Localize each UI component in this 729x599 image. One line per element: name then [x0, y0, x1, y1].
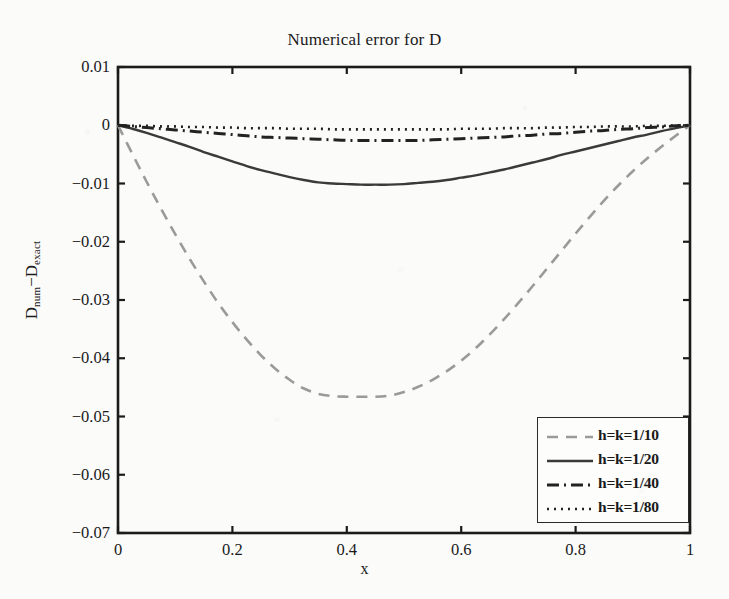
y-tick-label-0: 0.01: [32, 59, 110, 76]
y-tick-label-7: −0.06: [32, 467, 110, 484]
curve-h=k=1/80: [118, 125, 690, 129]
y-axis-label: Dnum−Dexact: [22, 190, 42, 370]
x-axis-label: x: [0, 560, 729, 578]
y-tick-label-6: −0.05: [32, 409, 110, 426]
x-tick-label-4: 0.8: [546, 542, 606, 559]
x-tick-label-5: 1: [660, 542, 720, 559]
data-curves: [118, 125, 690, 397]
legend-item-h=k=1/10[interactable]: h=k=1/10: [538, 423, 688, 447]
legend-label: h=k=1/10: [598, 426, 659, 444]
legend-label: h=k=1/40: [598, 474, 659, 492]
legend-line-sample-icon: [546, 477, 594, 489]
x-tick-label-1: 0.2: [202, 542, 262, 559]
legend-item-h=k=1/20[interactable]: h=k=1/20: [538, 447, 688, 471]
curve-h=k=1/10: [118, 125, 690, 397]
legend-label: h=k=1/20: [598, 450, 659, 468]
legend: h=k=1/10h=k=1/20h=k=1/40h=k=1/80: [537, 417, 689, 523]
legend-line-sample-icon: [546, 453, 594, 465]
legend-line-sample-icon: [546, 429, 594, 441]
x-tick-label-3: 0.6: [431, 542, 491, 559]
legend-item-h=k=1/40[interactable]: h=k=1/40: [538, 471, 688, 495]
y-tick-label-2: −0.01: [32, 176, 110, 193]
y-axis-label-sub-exact: exact: [30, 241, 42, 265]
y-tick-label-3: −0.02: [32, 234, 110, 251]
x-tick-label-2: 0.4: [317, 542, 377, 559]
figure-canvas: Numerical error for D 0.010−0.01−0.02−0.…: [0, 0, 729, 599]
y-axis-label-minus: −D: [22, 265, 41, 287]
y-tick-label-8: −0.07: [32, 525, 110, 542]
x-tick-label-0: 0: [88, 542, 148, 559]
legend-line-sample-icon: [546, 501, 594, 513]
legend-label: h=k=1/80: [598, 498, 659, 516]
curve-h=k=1/20: [118, 125, 690, 184]
y-tick-label-4: −0.03: [32, 292, 110, 309]
y-axis-label-sub-num: num: [30, 287, 42, 307]
y-tick-label-5: −0.04: [32, 350, 110, 367]
legend-item-h=k=1/80[interactable]: h=k=1/80: [538, 495, 688, 519]
y-tick-label-1: 0: [32, 117, 110, 134]
y-axis-label-base: D: [22, 307, 41, 319]
